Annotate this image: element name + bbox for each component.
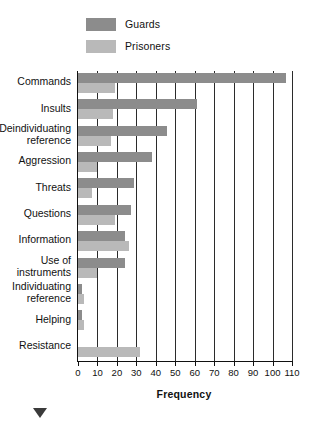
x-tick	[292, 361, 293, 366]
legend-label-guards: Guards	[125, 18, 160, 31]
x-tick-label: 100	[265, 367, 281, 378]
category-label: Aggression	[0, 155, 71, 167]
category-label: Deindividuatingreference	[0, 123, 71, 146]
x-tick	[273, 361, 274, 366]
x-tick-label: 20	[112, 367, 123, 378]
bar-guards	[78, 205, 131, 215]
x-tick-label: 70	[209, 367, 220, 378]
bar-guards	[78, 126, 167, 136]
x-tick	[195, 361, 196, 366]
x-tick-label: 10	[92, 367, 103, 378]
bar-prisoners	[78, 83, 115, 93]
x-tick	[117, 361, 118, 366]
legend-label-prisoners: Prisoners	[125, 40, 170, 53]
x-tick-label: 80	[228, 367, 239, 378]
bar-guards	[78, 73, 286, 83]
x-tick-label: 50	[170, 367, 181, 378]
footer-marker	[0, 404, 322, 425]
bar-row	[78, 258, 292, 284]
bar-guards	[78, 284, 82, 294]
bar-prisoners	[78, 268, 97, 278]
bar-guards	[78, 152, 152, 162]
bar-prisoners	[78, 215, 115, 225]
category-axis-labels: CommandsInsultsDeindividuatingreferenceA…	[0, 71, 75, 361]
x-tick	[97, 361, 98, 366]
bar-row	[78, 152, 292, 178]
x-axis-ticks	[78, 361, 292, 366]
category-label: Resistance	[0, 340, 71, 352]
x-tick	[156, 361, 157, 366]
x-tick	[78, 361, 79, 366]
bar-row	[78, 231, 292, 257]
x-axis-tick-labels: 0102030405060708090100110	[78, 367, 292, 381]
x-tick-label: 110	[284, 367, 299, 378]
category-label: Insults	[0, 103, 71, 115]
legend-swatch-prisoners	[86, 40, 116, 53]
x-tick	[136, 361, 137, 366]
x-axis-title: Frequency	[77, 388, 291, 400]
bar-guards	[78, 310, 82, 320]
bar-guards	[78, 231, 125, 241]
x-tick	[175, 361, 176, 366]
category-label: Questions	[0, 208, 71, 220]
bar-row	[78, 73, 292, 99]
x-tick-label: 0	[75, 367, 80, 378]
bar-row	[78, 337, 292, 363]
bar-prisoners	[78, 162, 97, 172]
chart-legend: Guards Prisoners	[86, 16, 170, 60]
x-tick-label: 90	[248, 367, 259, 378]
bar-row	[78, 178, 292, 204]
bar-row	[78, 99, 292, 125]
category-label: Commands	[0, 76, 71, 88]
category-label: Information	[0, 234, 71, 246]
bar-prisoners	[78, 109, 113, 119]
x-tick	[253, 361, 254, 366]
x-tick	[214, 361, 215, 366]
bar-row	[78, 205, 292, 231]
plot-area: 0102030405060708090100110	[77, 71, 292, 361]
bar-prisoners	[78, 188, 92, 198]
triangle-marker-icon	[33, 408, 47, 418]
bar-prisoners	[78, 347, 140, 357]
category-label: Use ofinstruments	[0, 255, 71, 278]
category-label: Helping	[0, 314, 71, 326]
category-label: Threats	[0, 182, 71, 194]
bar-prisoners	[78, 294, 84, 304]
bar-row	[78, 126, 292, 152]
bar-row	[78, 310, 292, 336]
x-tick-label: 60	[189, 367, 200, 378]
legend-item-guards: Guards	[86, 16, 170, 32]
bar-chart-figure: Guards Prisoners CommandsInsultsDeindivi…	[0, 0, 322, 425]
bar-prisoners	[78, 136, 111, 146]
bar-guards	[78, 99, 197, 109]
bar-prisoners	[78, 241, 129, 251]
bar-guards	[78, 258, 125, 268]
x-tick-label: 30	[131, 367, 142, 378]
x-tick	[234, 361, 235, 366]
bar-rows	[78, 71, 292, 361]
legend-swatch-guards	[86, 18, 116, 31]
bar-guards	[78, 178, 134, 188]
bar-row	[78, 284, 292, 310]
bar-prisoners	[78, 320, 84, 330]
category-label: Individuatingreference	[0, 281, 71, 304]
x-tick-label: 40	[151, 367, 162, 378]
legend-item-prisoners: Prisoners	[86, 38, 170, 54]
gridline	[292, 71, 293, 361]
